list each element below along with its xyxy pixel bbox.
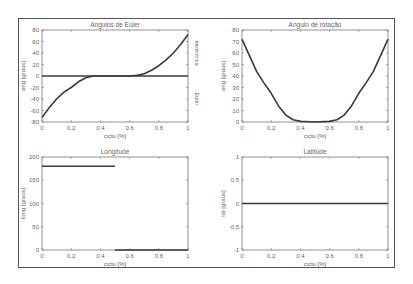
y-tick-label: 70 [232,39,239,45]
y-tick-label: -40 [30,96,39,102]
x-tick-label: 1 [186,253,190,259]
y-tick-label: -80 [30,119,39,125]
x-tick-label: 0.4 [296,125,305,131]
x-tick-label: 0.8 [355,253,364,259]
latitude-plot: 00.20.40.60.8110.50-0.5-1Latitudeciclo [… [220,148,390,267]
y-tick-label: 0 [236,119,240,125]
y-axis-label: long [graus] [20,187,26,219]
rotation-angle-plot: 00.20.40.60.8180706050403020100Angulo de… [220,21,390,139]
y-tick-label: 50 [232,62,239,68]
right-axis-label: Euler [194,93,200,106]
y-tick-label: 0 [36,247,40,253]
y-tick-label: 20 [232,96,239,102]
x-tick-label: 0.4 [96,125,105,131]
longitude-plot: 00.20.40.60.81200150100500Longitudeciclo… [20,148,190,267]
x-tick-label: 0.4 [296,253,305,259]
axes-box [242,30,388,122]
euler-angles-plot: 00.20.40.60.81806040200-20-40-60-80Angul… [20,21,200,139]
plot-title: Latitude [303,148,327,155]
y-tick-label: 100 [29,201,40,207]
x-tick-label: 0.6 [325,125,334,131]
y-tick-label: 30 [232,85,239,91]
y-tick-label: 50 [32,224,39,230]
x-axis-label: ciclo [%] [304,261,327,267]
plot-title: Longitude [101,148,130,156]
x-tick-label: 0 [240,125,244,131]
y-tick-label: 200 [29,154,40,160]
x-tick-label: 0.2 [67,125,76,131]
y-tick-label: -1 [234,247,240,253]
x-tick-label: 0.8 [155,125,164,131]
y-tick-label: -20 [30,85,39,91]
x-tick-label: 0.8 [355,125,364,131]
y-tick-label: 10 [232,108,239,114]
x-tick-label: 0.2 [267,125,276,131]
y-tick-label: 60 [32,39,39,45]
x-tick-label: 0.8 [155,253,164,259]
y-tick-label: 1 [236,154,240,160]
y-tick-label: -60 [30,108,39,114]
y-tick-label: 150 [29,177,40,183]
y-tick-label: 0 [236,201,240,207]
x-tick-label: 1 [386,253,390,259]
y-tick-label: 20 [32,62,39,68]
axes-box [42,157,188,250]
plot-title: Angulos de Euler [90,21,140,29]
x-tick-label: 0.6 [325,253,334,259]
y-tick-label: -0.5 [229,224,240,230]
x-axis-label: ciclo [%] [104,133,127,139]
y-tick-label: 40 [32,50,39,56]
y-tick-label: 80 [32,27,39,33]
x-axis-label: ciclo [%] [104,261,127,267]
plot-title: Angulo de rotação [289,21,342,29]
x-tick-label: 0 [40,125,44,131]
x-tick-label: 0 [40,253,44,259]
x-tick-label: 0 [240,253,244,259]
y-tick-label: 40 [232,73,239,79]
x-tick-label: 0.6 [125,125,134,131]
y-tick-label: 80 [232,27,239,33]
figure-canvas: 00.20.40.60.81806040200-20-40-60-80Angul… [0,0,413,284]
y-tick-label: 60 [232,50,239,56]
x-tick-label: 1 [386,125,390,131]
x-tick-label: 0.2 [67,253,76,259]
x-axis-label: ciclo [%] [304,133,327,139]
y-axis-label: lat [graus] [220,190,226,217]
y-axis-label: ang [graus] [220,61,226,91]
x-tick-label: 0.6 [125,253,134,259]
y-tick-label: 0 [36,73,40,79]
x-tick-label: 0.2 [267,253,276,259]
x-tick-label: 0.4 [96,253,105,259]
y-axis-label: ang [graus] [20,61,26,91]
right-axis-label: excêntrica [194,40,200,66]
x-tick-label: 1 [186,125,190,131]
y-tick-label: 0.5 [231,177,240,183]
